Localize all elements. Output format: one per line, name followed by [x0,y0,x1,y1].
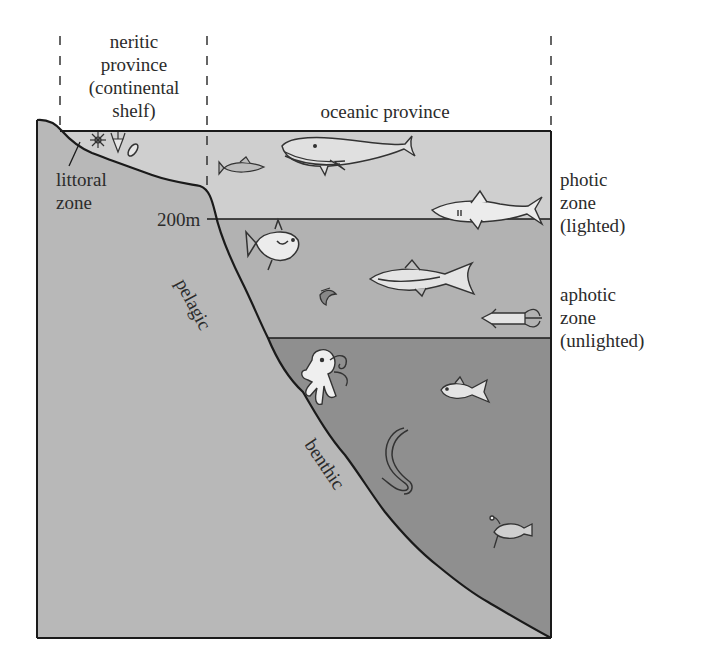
photic-line-2: zone [560,191,625,214]
neritic-province-label: neritic province (continental shelf) [68,30,200,122]
neritic-line-3: (continental [68,76,200,99]
aphotic-line-3: (unlighted) [560,329,644,352]
aphotic-line-1: aphotic [560,283,644,306]
aphotic-zone-label: aphotic zone (unlighted) [560,283,644,352]
oceanic-province-label: oceanic province [300,101,470,122]
neritic-line-2: province [68,53,200,76]
photic-line-3: (lighted) [560,214,625,237]
depth-marker-200m: 200m [157,209,200,230]
littoral-line-1: littoral [56,168,107,191]
ocean-zones-diagram: neritic province (continental shelf) oce… [0,0,705,672]
littoral-zone-label: littoral zone [56,168,107,214]
aphotic-line-2: zone [560,306,644,329]
littoral-line-2: zone [56,191,107,214]
photic-zone-label: photic zone (lighted) [560,168,625,237]
neritic-line-4: shelf) [68,99,200,122]
neritic-line-1: neritic [68,30,200,53]
plankton-star-icon [90,132,106,148]
photic-line-1: photic [560,168,625,191]
